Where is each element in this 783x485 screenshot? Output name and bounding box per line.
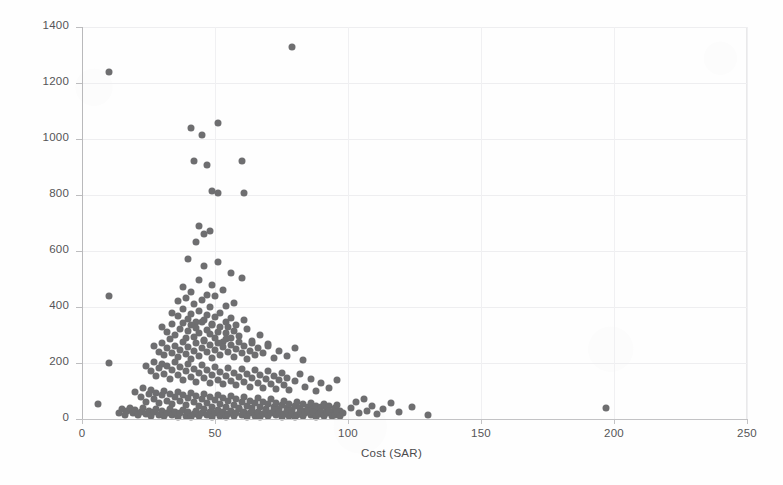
x-axis-line xyxy=(82,419,748,420)
data-point xyxy=(243,355,250,362)
gridline-horizontal xyxy=(82,195,747,196)
data-point xyxy=(105,292,112,299)
y-tick-mark xyxy=(76,195,82,196)
data-point xyxy=(243,326,250,333)
y-tick-label: 200 xyxy=(49,355,69,367)
y-tick-label: 400 xyxy=(49,299,69,311)
data-point xyxy=(169,320,176,327)
data-point xyxy=(214,190,221,197)
y-tick-label: 600 xyxy=(49,243,69,255)
y-axis-line xyxy=(82,27,83,420)
data-point xyxy=(174,312,181,319)
data-point xyxy=(214,258,221,265)
x-tick-mark xyxy=(215,419,216,424)
data-point xyxy=(291,345,298,352)
data-point xyxy=(217,351,224,358)
gridline-vertical xyxy=(614,27,615,419)
data-point xyxy=(185,256,192,263)
data-point xyxy=(174,298,181,305)
data-point xyxy=(352,399,359,406)
data-point xyxy=(299,357,306,364)
data-point xyxy=(230,353,237,360)
data-point xyxy=(379,405,386,412)
data-point xyxy=(217,309,224,316)
data-point xyxy=(180,306,187,313)
gridline-horizontal xyxy=(82,251,747,252)
data-point xyxy=(424,412,431,419)
x-tick-label: 0 xyxy=(79,427,86,439)
data-point xyxy=(227,314,234,321)
data-point xyxy=(180,284,187,291)
data-point xyxy=(153,373,160,380)
data-point xyxy=(204,311,211,318)
data-point xyxy=(206,380,213,387)
data-point xyxy=(257,332,264,339)
data-point xyxy=(603,404,610,411)
gridline-vertical xyxy=(747,27,748,419)
data-point xyxy=(209,354,216,361)
data-point xyxy=(188,310,195,317)
data-point xyxy=(368,402,375,409)
y-tick-label: 1200 xyxy=(43,75,69,87)
data-point xyxy=(164,328,171,335)
data-point xyxy=(246,383,253,390)
x-tick-mark xyxy=(481,419,482,424)
x-tick-mark xyxy=(747,419,748,424)
x-tick-mark xyxy=(82,419,83,424)
data-point xyxy=(302,383,309,390)
data-point xyxy=(166,375,173,382)
y-tick-mark xyxy=(76,83,82,84)
data-point xyxy=(360,396,367,403)
data-point xyxy=(238,157,245,164)
gridline-vertical xyxy=(481,27,482,419)
data-point xyxy=(283,374,290,381)
data-point xyxy=(201,262,208,269)
gridline-horizontal xyxy=(82,27,747,28)
y-tick-mark xyxy=(76,251,82,252)
data-point xyxy=(318,379,325,386)
data-point xyxy=(196,276,203,283)
data-point xyxy=(150,358,157,365)
data-point xyxy=(222,303,229,310)
gridline-vertical xyxy=(348,27,349,419)
y-tick-mark xyxy=(76,139,82,140)
data-point xyxy=(355,409,362,416)
data-point xyxy=(105,360,112,367)
data-point xyxy=(188,288,195,295)
data-point xyxy=(219,286,226,293)
gridline-horizontal xyxy=(82,83,747,84)
plot-area xyxy=(82,27,747,419)
data-point xyxy=(180,319,187,326)
data-point xyxy=(275,347,282,354)
data-point xyxy=(177,325,184,332)
data-point xyxy=(198,297,205,304)
y-tick-label: 0 xyxy=(62,411,69,423)
data-point xyxy=(291,378,298,385)
data-point xyxy=(233,382,240,389)
data-point xyxy=(219,381,226,388)
y-tick-mark xyxy=(76,363,82,364)
gridline-horizontal xyxy=(82,139,747,140)
data-point xyxy=(180,377,187,384)
y-tick-label: 800 xyxy=(49,187,69,199)
data-point xyxy=(193,379,200,386)
x-tick-mark xyxy=(614,419,615,424)
data-point xyxy=(241,317,248,324)
data-point xyxy=(188,124,195,131)
data-point xyxy=(241,190,248,197)
data-point xyxy=(196,307,203,314)
x-tick-mark xyxy=(348,419,349,424)
data-point xyxy=(259,384,266,391)
data-point xyxy=(161,352,168,359)
data-point xyxy=(190,158,197,165)
data-point xyxy=(387,399,394,406)
data-point xyxy=(334,376,341,383)
data-point xyxy=(212,293,219,300)
data-point xyxy=(198,318,205,325)
data-point xyxy=(307,375,314,382)
data-point xyxy=(193,239,200,246)
data-point xyxy=(326,384,333,391)
data-point xyxy=(283,352,290,359)
data-point xyxy=(259,349,266,356)
data-point xyxy=(182,295,189,302)
